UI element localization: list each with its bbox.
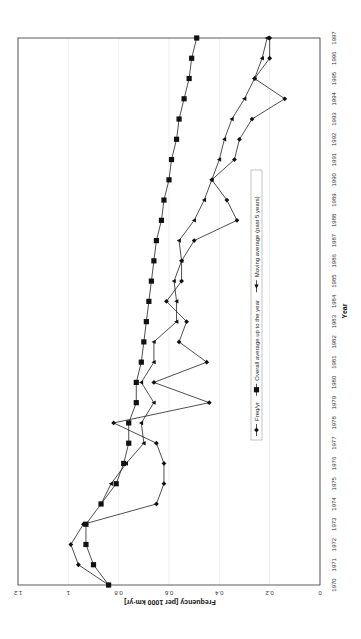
- legend-item: Freq/yr: [254, 402, 260, 421]
- year-tick-label: 1994: [331, 91, 337, 105]
- year-tick-label: 1986: [331, 254, 337, 268]
- legend: Freq/yrOverall average up to the yearMov…: [251, 170, 262, 440]
- year-tick-label: 1988: [331, 213, 337, 227]
- year-tick-label: 1996: [331, 51, 337, 65]
- value-tick-label: 0: [318, 590, 322, 596]
- year-tick-label: 1987: [331, 233, 337, 247]
- year-tick-label: 1992: [331, 132, 337, 146]
- year-tick-label: 1981: [331, 355, 337, 369]
- year-tick-label: 1995: [331, 71, 337, 85]
- year-tick-label: 1980: [331, 375, 337, 389]
- value-tick-label: 0.6: [164, 590, 173, 596]
- year-tick-label: 1991: [331, 152, 337, 166]
- value-tick-label: 1.2: [13, 590, 22, 596]
- year-tick-label: 1997: [331, 31, 337, 45]
- chart: 00.20.40.60.811.219701971197219731974197…: [0, 0, 361, 639]
- year-tick-label: 1976: [331, 456, 337, 470]
- year-tick-label: 1990: [331, 172, 337, 186]
- year-tick-label: 1972: [331, 537, 337, 551]
- year-tick-label: 1974: [331, 497, 337, 511]
- year-tick-label: 1978: [331, 416, 337, 430]
- year-tick-label: 1971: [331, 557, 337, 571]
- year-tick-label: 1982: [331, 335, 337, 349]
- value-tick-label: 0.2: [265, 590, 274, 596]
- legend-item: Moving average (past 5 years): [254, 196, 260, 277]
- year-tick-label: 1975: [331, 476, 337, 490]
- y-axis-label: Frequency [per 1000 km·yr]: [124, 598, 215, 606]
- value-tick-label: 0.8: [114, 590, 123, 596]
- year-tick-label: 1984: [331, 294, 337, 308]
- year-tick-label: 1977: [331, 436, 337, 450]
- year-tick-label: 1989: [331, 193, 337, 207]
- legend-item: Overall average up to the year: [254, 300, 260, 381]
- value-tick-label: 1: [66, 590, 70, 596]
- year-tick-label: 1985: [331, 274, 337, 288]
- series-triangle: [99, 36, 269, 506]
- x-axis-label: Year: [341, 303, 348, 318]
- year-tick-label: 1979: [331, 395, 337, 409]
- value-tick-label: 0.4: [215, 590, 224, 596]
- year-tick-label: 1973: [331, 517, 337, 531]
- year-tick-label: 1983: [331, 314, 337, 328]
- year-tick-label: 1970: [331, 578, 337, 592]
- year-tick-label: 1993: [331, 112, 337, 126]
